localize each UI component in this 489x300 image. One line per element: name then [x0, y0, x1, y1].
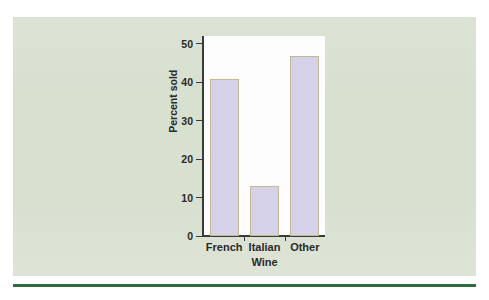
plot-area — [204, 36, 325, 236]
bar-italian[interactable] — [250, 186, 279, 236]
bar-french[interactable] — [210, 79, 239, 236]
x-axis-title: Wine — [204, 257, 325, 268]
y-axis-tick — [196, 120, 202, 121]
figure-canvas: 01020304050 Percent sold Wine FrenchItal… — [0, 0, 489, 300]
y-axis-tick-label: 0 — [159, 231, 193, 242]
y-axis-title: Percent sold — [168, 61, 179, 141]
x-axis-category-label: Other — [285, 242, 325, 253]
y-axis-tick — [196, 82, 202, 83]
bar-chart: 01020304050 Percent sold Wine FrenchItal… — [155, 28, 355, 263]
x-axis-tick — [285, 237, 286, 241]
y-axis-tick — [196, 197, 202, 198]
x-axis-category-label: Italian — [244, 242, 284, 253]
x-axis-category-label: French — [204, 242, 244, 253]
y-axis-tick-label: 50 — [159, 39, 193, 50]
bar-other[interactable] — [290, 56, 319, 236]
y-axis-tick — [196, 159, 202, 160]
bottom-green-rule — [13, 284, 476, 287]
y-axis-tick — [196, 236, 202, 237]
y-axis-tick-label: 20 — [159, 154, 193, 165]
y-axis-tick-label: 10 — [159, 193, 193, 204]
y-axis-tick — [196, 43, 202, 44]
x-axis-tick — [244, 237, 245, 241]
